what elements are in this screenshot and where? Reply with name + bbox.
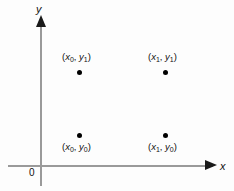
point-marker — [77, 70, 82, 75]
y-axis-arrow-icon — [36, 15, 46, 27]
paren-close: ) — [174, 141, 177, 152]
paren-close: ) — [88, 51, 91, 62]
x-subscript: 0 — [70, 56, 74, 63]
x-axis-line — [8, 165, 213, 167]
origin-label: 0 — [29, 168, 35, 178]
point-marker — [163, 133, 168, 138]
y-axis-label: y — [36, 4, 42, 15]
x-axis-label: x — [220, 161, 226, 172]
x-subscript: 1 — [156, 146, 160, 153]
y-subscript: 0 — [84, 146, 88, 153]
point-label: (x0, y0) — [62, 142, 91, 152]
paren-close: ) — [174, 51, 177, 62]
y-subscript: 0 — [170, 146, 174, 153]
coordinate-diagram: y x 0 (x0, y1) (x1, y1) (x0, y0) (x1, y0… — [0, 0, 234, 191]
point-label: (x1, y0) — [148, 142, 177, 152]
point-label: (x1, y1) — [148, 52, 177, 62]
x-axis-arrow-icon — [205, 160, 217, 170]
point-marker — [77, 133, 82, 138]
x-subscript: 0 — [70, 146, 74, 153]
y-subscript: 1 — [84, 56, 88, 63]
y-subscript: 1 — [170, 56, 174, 63]
point-marker — [163, 70, 168, 75]
point-label: (x0, y1) — [62, 52, 91, 62]
paren-close: ) — [88, 141, 91, 152]
y-axis-line — [40, 22, 42, 186]
x-subscript: 1 — [156, 56, 160, 63]
